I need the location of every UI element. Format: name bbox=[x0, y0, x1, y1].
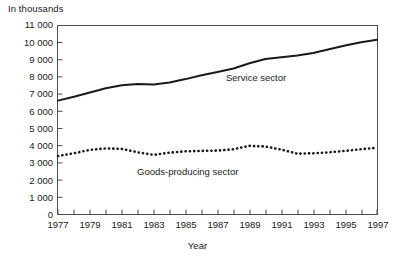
x-axis-ticks bbox=[58, 210, 377, 215]
plot-frame bbox=[58, 26, 378, 215]
chart-plot-svg bbox=[0, 0, 395, 265]
series-line-service bbox=[58, 40, 377, 101]
chart-container: In thousands 0 1 000 2 000 3 000 4 000 5… bbox=[0, 0, 395, 265]
y-axis-ticks bbox=[58, 26, 63, 215]
series-line-goods bbox=[58, 146, 377, 156]
